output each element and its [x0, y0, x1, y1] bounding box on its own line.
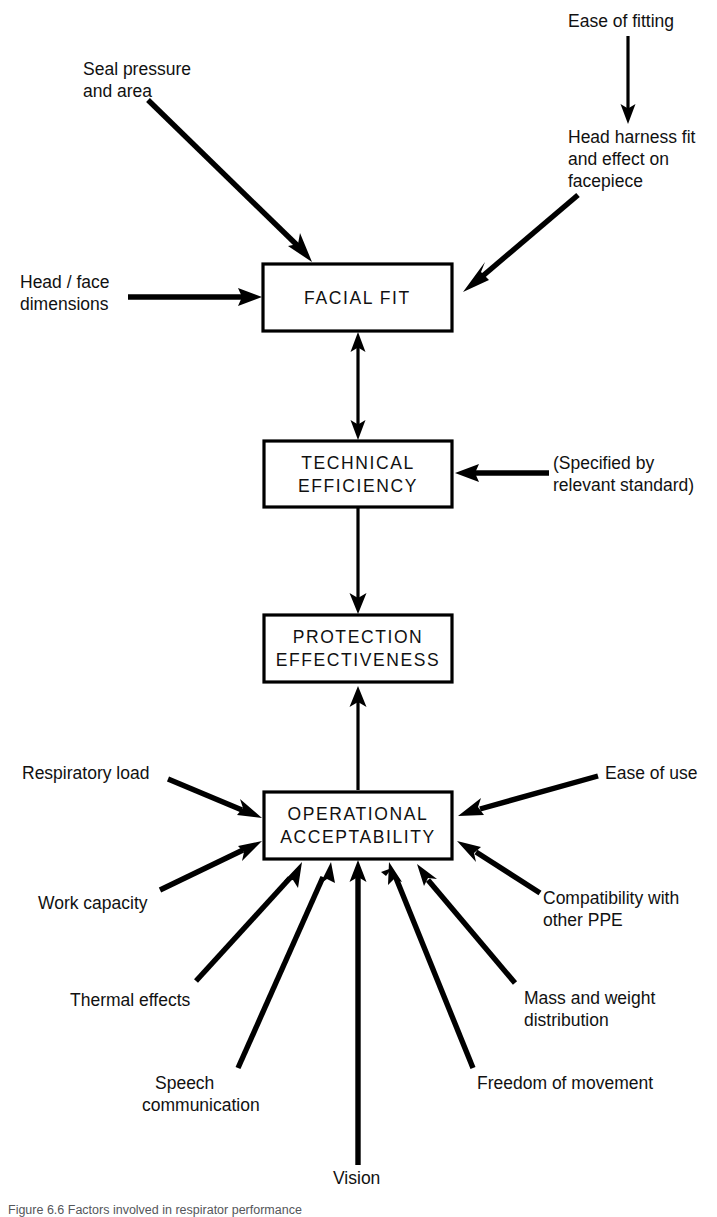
label-head-harness-fit-line-0: Head harness fit — [568, 127, 696, 147]
connector-standard-to-technical-efficiency — [455, 464, 549, 482]
connector-ease-of-use-to-operational — [458, 776, 598, 816]
box-operational-acceptability-line-0: OPERATIONAL — [288, 804, 429, 824]
box-protection-effectiveness-line-0: PROTECTION — [293, 627, 424, 647]
label-head-face-dimensions-line-1: dimensions — [20, 294, 109, 314]
label-thermal-effects-line-0: Thermal effects — [70, 990, 191, 1010]
label-ease-of-fitting: Ease of fitting — [568, 11, 674, 31]
label-respiratory-load-line-0: Respiratory load — [22, 763, 149, 783]
label-freedom-of-movement-line-0: Freedom of movement — [477, 1073, 653, 1093]
label-head-harness-fit-line-1: and effect on — [568, 149, 669, 169]
connector-speech-communication-to-operational — [238, 862, 335, 1068]
connector-head-harness-to-facial-fit — [463, 195, 578, 292]
connector-vision-to-operational — [350, 860, 367, 1165]
connector-facial-fit-technical-efficiency — [351, 332, 366, 440]
label-ease-of-use: Ease of use — [605, 763, 697, 783]
label-specified-by-relevant-standard: (Specified by relevant standard) — [553, 453, 694, 495]
label-freedom-of-movement: Freedom of movement — [477, 1073, 653, 1093]
label-head-face-dimensions: Head / face dimensions — [20, 272, 110, 314]
label-head-harness-fit: Head harness fit and effect on facepiece — [568, 127, 696, 191]
box-protection-effectiveness[interactable]: PROTECTION EFFECTIVENESS — [264, 615, 452, 682]
connector-freedom-of-movement-to-operational — [388, 862, 473, 1068]
box-technical-efficiency-line-1: EFFICIENCY — [298, 476, 418, 496]
connector-seal-pressure-to-facial-fit — [148, 100, 312, 262]
label-mass-and-weight-distribution: Mass and weight distribution — [524, 988, 655, 1030]
box-facial-fit-line-0: FACIAL FIT — [304, 288, 411, 308]
label-compatibility-with-other-ppe-line-0: Compatibility with — [543, 888, 679, 908]
label-seal-pressure-and-area-line-1: and area — [83, 81, 152, 101]
label-ease-of-fitting-line-0: Ease of fitting — [568, 11, 674, 31]
label-head-face-dimensions-line-0: Head / face — [20, 272, 110, 292]
label-mass-and-weight-distribution-line-0: Mass and weight — [524, 988, 655, 1008]
label-thermal-effects: Thermal effects — [70, 990, 191, 1010]
label-work-capacity: Work capacity — [38, 893, 148, 913]
figure-caption: Figure 6.6 Factors involved in respirato… — [8, 1203, 708, 1217]
label-head-harness-fit-line-2: facepiece — [568, 171, 643, 191]
connector-work-capacity-to-operational — [160, 841, 262, 890]
label-seal-pressure-and-area: Seal pressure and area — [83, 59, 191, 101]
box-technical-efficiency[interactable]: TECHNICAL EFFICIENCY — [264, 441, 452, 507]
label-mass-and-weight-distribution-line-1: distribution — [524, 1010, 609, 1030]
label-work-capacity-line-0: Work capacity — [38, 893, 148, 913]
label-vision-line-0: Vision — [333, 1168, 380, 1188]
label-specified-by-relevant-standard-line-0: (Specified by — [553, 453, 654, 473]
label-speech-communication-line-0: Speech — [155, 1073, 214, 1093]
box-facial-fit[interactable]: FACIAL FIT — [263, 264, 452, 331]
label-compatibility-with-other-ppe: Compatibility with other PPE — [543, 888, 679, 930]
box-operational-acceptability-line-1: ACCEPTABILITY — [280, 827, 436, 847]
label-speech-communication-line-1: communication — [142, 1095, 260, 1115]
box-protection-effectiveness-line-1: EFFECTIVENESS — [276, 650, 441, 670]
connector-compatibility-to-operational — [457, 841, 540, 893]
box-operational-acceptability[interactable]: OPERATIONAL ACCEPTABILITY — [264, 792, 452, 859]
label-specified-by-relevant-standard-line-1: relevant standard) — [553, 475, 694, 495]
connector-ease-of-fitting-to-head-harness — [621, 36, 636, 124]
label-seal-pressure-and-area-line-0: Seal pressure — [83, 59, 191, 79]
label-respiratory-load: Respiratory load — [22, 763, 149, 783]
connector-operational-to-protection-effectiveness — [350, 686, 367, 790]
label-ease-of-use-line-0: Ease of use — [605, 763, 697, 783]
connector-head-face-dimensions-to-facial-fit — [128, 288, 262, 306]
label-compatibility-with-other-ppe-line-1: other PPE — [543, 910, 623, 930]
connector-technical-efficiency-to-protection-effectiveness — [350, 507, 367, 614]
label-vision: Vision — [333, 1168, 380, 1188]
box-technical-efficiency-line-0: TECHNICAL — [301, 453, 415, 473]
label-speech-communication: Speech communication — [142, 1073, 260, 1115]
connector-respiratory-load-to-operational — [168, 779, 262, 818]
